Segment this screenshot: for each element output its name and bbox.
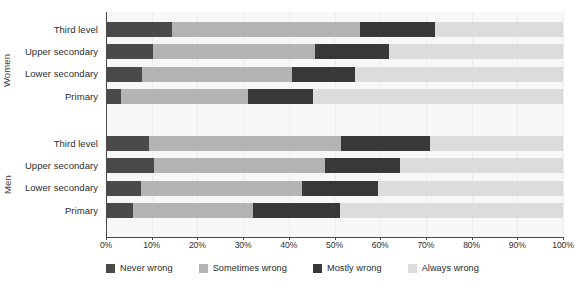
y-axis-label-women-primary: Primary bbox=[65, 89, 98, 105]
bar-segment-always-wrong bbox=[355, 67, 563, 82]
group-label-women-text: Women bbox=[2, 53, 13, 86]
bar-segment-always-wrong bbox=[435, 22, 563, 37]
x-axis-tick-label-70pct: 70% bbox=[417, 240, 434, 250]
group-label-women: Women bbox=[0, 22, 14, 118]
bar-men-primary bbox=[106, 203, 563, 218]
bar-segment-always-wrong bbox=[430, 136, 563, 151]
bar-segment-always-wrong bbox=[313, 89, 563, 104]
x-axis-tick-label-10pct: 10% bbox=[143, 240, 160, 250]
x-axis-tick-labels: 0%10%20%30%40%50%60%70%80%90%100% bbox=[106, 240, 563, 254]
group-label-men-text: Men bbox=[2, 175, 13, 194]
x-axis-tick-label-80pct: 80% bbox=[463, 240, 480, 250]
bar-segment-mostly-wrong bbox=[315, 44, 389, 59]
bar-segment-mostly-wrong bbox=[292, 67, 355, 82]
legend-label: Never wrong bbox=[120, 263, 173, 273]
legend-label: Sometimes wrong bbox=[213, 263, 287, 273]
legend-swatch-sometimes-wrong bbox=[199, 264, 208, 273]
x-axis-tick-label-100pct: 100% bbox=[552, 240, 574, 250]
bar-segment-never-wrong bbox=[106, 22, 172, 37]
y-axis-label-women-lower-secondary: Lower secondary bbox=[25, 66, 98, 82]
legend-swatch-never-wrong bbox=[106, 264, 115, 273]
y-axis-label-women-upper-secondary: Upper secondary bbox=[25, 44, 98, 60]
x-axis-tick-label-30pct: 30% bbox=[235, 240, 252, 250]
x-axis-tick-label-20pct: 20% bbox=[189, 240, 206, 250]
y-axis-label-men-lower-secondary: Lower secondary bbox=[25, 180, 98, 196]
bar-segment-mostly-wrong bbox=[302, 181, 378, 196]
group-label-men: Men bbox=[0, 136, 14, 232]
bar-women-primary bbox=[106, 89, 563, 104]
legend-label: Mostly wrong bbox=[327, 263, 382, 273]
bar-segment-sometimes-wrong bbox=[149, 136, 341, 151]
y-axis-label-men-upper-secondary: Upper secondary bbox=[25, 158, 98, 174]
bar-segment-mostly-wrong bbox=[325, 158, 400, 173]
legend-item-mostly-wrong[interactable]: Mostly wrong bbox=[313, 263, 382, 273]
bar-segment-mostly-wrong bbox=[341, 136, 430, 151]
bar-segment-always-wrong bbox=[389, 44, 563, 59]
bar-segment-always-wrong bbox=[400, 158, 563, 173]
bar-segment-always-wrong bbox=[340, 203, 563, 218]
bar-segment-sometimes-wrong bbox=[153, 44, 315, 59]
bar-segment-never-wrong bbox=[106, 181, 141, 196]
legend-swatch-always-wrong bbox=[408, 264, 417, 273]
bar-segment-never-wrong bbox=[106, 67, 142, 82]
bar-men-lower-secondary bbox=[106, 181, 563, 196]
bar-segment-mostly-wrong bbox=[360, 22, 434, 37]
gridline-100pct bbox=[563, 12, 564, 238]
bar-segment-sometimes-wrong bbox=[141, 181, 302, 196]
bar-women-lower-secondary bbox=[106, 67, 563, 82]
legend-item-sometimes-wrong[interactable]: Sometimes wrong bbox=[199, 263, 287, 273]
x-axis-tick-label-90pct: 90% bbox=[509, 240, 526, 250]
bar-segment-sometimes-wrong bbox=[121, 89, 248, 104]
x-axis-tick-label-40pct: 40% bbox=[280, 240, 297, 250]
bar-segment-never-wrong bbox=[106, 44, 153, 59]
bar-segment-sometimes-wrong bbox=[154, 158, 325, 173]
bar-segment-sometimes-wrong bbox=[142, 67, 292, 82]
plot-area bbox=[106, 12, 563, 238]
legend-label: Always wrong bbox=[422, 263, 479, 273]
bar-segment-never-wrong bbox=[106, 89, 121, 104]
y-axis-label-men-primary: Primary bbox=[65, 203, 98, 219]
bar-women-third-level bbox=[106, 22, 563, 37]
y-axis-line bbox=[106, 12, 107, 238]
y-axis-label-men-third-level: Third level bbox=[54, 136, 98, 152]
x-axis-tick-label-60pct: 60% bbox=[372, 240, 389, 250]
bar-segment-mostly-wrong bbox=[248, 89, 313, 104]
bar-segment-sometimes-wrong bbox=[172, 22, 360, 37]
bar-men-third-level bbox=[106, 136, 563, 151]
bar-men-upper-secondary bbox=[106, 158, 563, 173]
legend-item-always-wrong[interactable]: Always wrong bbox=[408, 263, 479, 273]
y-axis-label-women-third-level: Third level bbox=[54, 22, 98, 38]
legend: Never wrongSometimes wrongMostly wrongAl… bbox=[106, 263, 505, 273]
chart-container: Women Men Third levelUpper secondaryLowe… bbox=[0, 0, 578, 291]
legend-item-never-wrong[interactable]: Never wrong bbox=[106, 263, 173, 273]
bar-segment-never-wrong bbox=[106, 203, 133, 218]
bar-segment-never-wrong bbox=[106, 136, 149, 151]
bar-women-upper-secondary bbox=[106, 44, 563, 59]
bar-segment-never-wrong bbox=[106, 158, 154, 173]
bar-segment-always-wrong bbox=[378, 181, 563, 196]
legend-swatch-mostly-wrong bbox=[313, 264, 322, 273]
bar-segment-sometimes-wrong bbox=[133, 203, 253, 218]
x-axis-tick-label-50pct: 50% bbox=[326, 240, 343, 250]
bar-segment-mostly-wrong bbox=[253, 203, 340, 218]
x-axis-tick-label-0pct: 0% bbox=[100, 240, 112, 250]
